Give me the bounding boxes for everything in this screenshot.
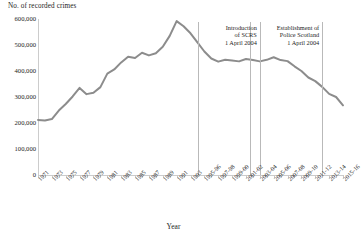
annotation-scrs: Introduction of SCRS 1 April 2004 [200,24,257,46]
annotation-vline [198,22,199,175]
annotation-scrs-line3: 1 April 2004 [200,39,257,46]
y-axis-tick-300000: 300,000 [15,94,36,101]
y-axis-tick-600000: 600,000 [15,16,36,23]
x-axis-tick-labels: 1971197319751977197919811983198519871989… [0,178,347,218]
y-axis-tick-100000: 100,000 [15,146,36,153]
x-axis-title: Year [0,222,347,231]
annotation-police-scotland-line2: Police Scotland [252,31,319,38]
y-axis-tick-200000: 200,000 [15,120,36,127]
y-axis-tick-labels: 0100,000200,000300,000400,000500,000600,… [0,19,36,175]
annotation-vline [322,22,323,175]
annotation-scrs-line1: Introduction [200,24,257,31]
y-axis-tick-400000: 400,000 [15,68,36,75]
annotation-scrs-line2: of SCRS [200,31,257,38]
annotation-police-scotland: Establishment of Police Scotland 1 April… [252,24,319,46]
annotation-police-scotland-line1: Establishment of [252,24,319,31]
y-axis-tick-500000: 500,000 [15,42,36,49]
annotation-police-scotland-line3: 1 April 2004 [252,39,319,46]
y-axis-title: No. of recorded crimes [8,2,76,10]
